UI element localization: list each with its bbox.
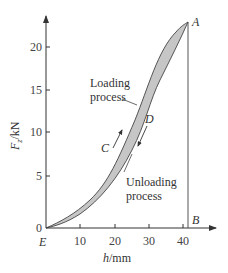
x-axis-title: h/mm (103, 252, 131, 264)
x-tick-20: 20 (109, 235, 121, 247)
loading-process-label: Loading process (90, 76, 130, 104)
x-tick-40: 40 (177, 235, 189, 247)
unloading-process-label: Unloading process (126, 175, 177, 203)
x-tick-10: 10 (74, 235, 86, 247)
y-tick-5: 5 (36, 170, 42, 182)
y-tick-15: 15 (30, 84, 42, 96)
point-a-label: A (192, 16, 199, 28)
x-tick-30: 30 (143, 235, 155, 247)
y-tick-10: 10 (30, 126, 42, 138)
y-tick-20: 20 (30, 41, 42, 53)
point-e-label: E (39, 236, 46, 248)
y-tick-0: 0 (36, 222, 42, 234)
y-axis-title: Fz/kN (9, 122, 24, 150)
point-d-label: D (145, 113, 154, 125)
loading-direction-arrow (113, 130, 122, 148)
point-c-label: C (101, 142, 109, 154)
point-b-label: B (192, 214, 199, 226)
